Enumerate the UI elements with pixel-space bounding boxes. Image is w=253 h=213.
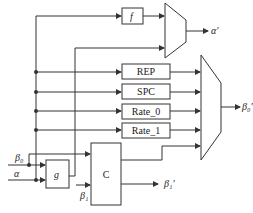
rep-block: REP [122,64,200,79]
alpha-input: α [8,168,45,182]
svg-text:β₀: β₀ [14,152,24,163]
svg-text:α′: α′ [211,25,219,36]
f-block: f [122,8,164,24]
svg-text:Rate_1: Rate_1 [132,125,160,136]
svg-text:SPC: SPC [137,86,155,97]
svg-text:β₁′: β₁′ [163,178,175,189]
beta1-input: β₁ [76,185,90,201]
svg-text:β₀′: β₀′ [241,101,253,112]
spc-block: SPC [122,84,200,99]
rate1-block: Rate_1 [122,123,200,138]
svg-text:α: α [14,168,20,179]
bottom-mux: β₀′ [201,55,253,160]
c-block: C β₁′ [91,143,200,205]
svg-text:REP: REP [137,66,156,77]
svg-text:C: C [103,169,110,180]
svg-text:Rate_0: Rate_0 [132,106,160,117]
block-diagram: α β₀ g f α′ REP SPC Rate_0 [0,0,253,213]
rate0-block: Rate_0 [122,104,200,119]
svg-text:g: g [54,169,59,180]
top-mux: α′ [165,3,219,58]
svg-text:β₁: β₁ [79,190,88,201]
